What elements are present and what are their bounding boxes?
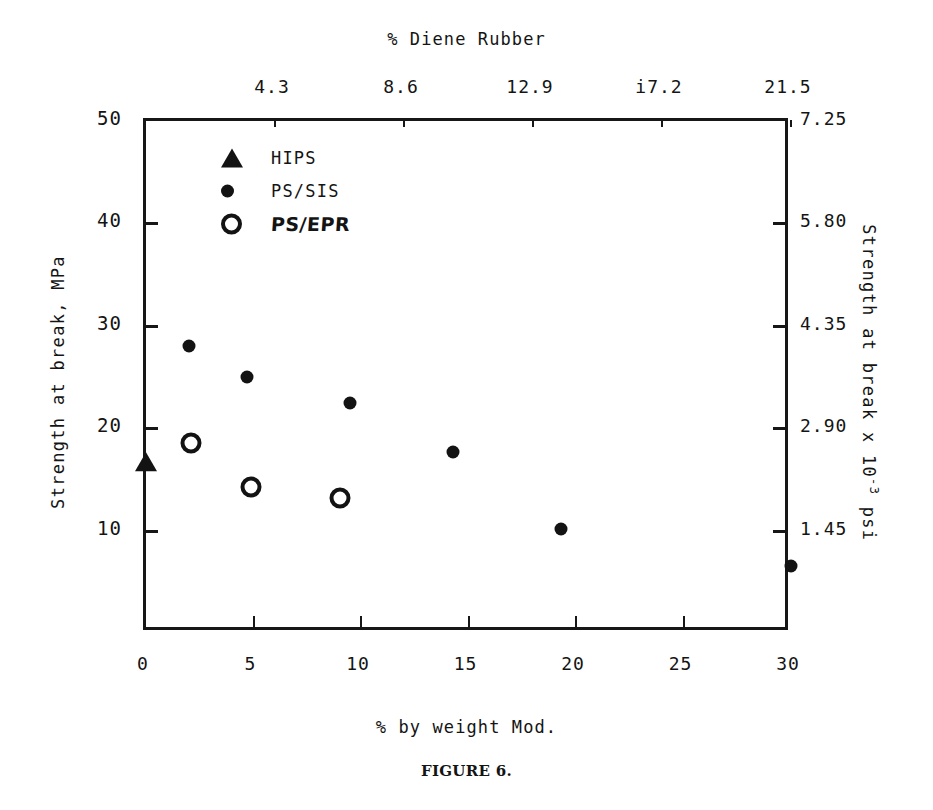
x-axis-tick-label: 20 <box>561 653 585 674</box>
plot-area[interactable]: HIPSPS/SISPS/EPR <box>143 118 788 630</box>
data-point-ps-sis <box>241 371 254 384</box>
y-axis-tick <box>145 325 158 328</box>
top-axis-tick <box>790 120 792 127</box>
secondary-y-axis-tick <box>773 427 786 430</box>
data-point-hips <box>135 452 157 471</box>
data-point-ps-epr <box>241 476 262 497</box>
x-axis-tick <box>683 616 685 628</box>
secondary-y-axis-title-exponent: -3 <box>867 478 881 495</box>
x-axis-tick-label: 15 <box>454 653 478 674</box>
y-axis-tick-label: 50 <box>62 107 122 129</box>
data-point-ps-sis <box>785 560 798 573</box>
data-point-ps-sis <box>344 396 357 409</box>
secondary-y-axis-tick <box>773 325 786 328</box>
legend-item-ps-epr: PS/EPR <box>221 207 441 240</box>
legend-label: PS/EPR <box>270 213 351 235</box>
x-axis-tick-label: 25 <box>669 653 693 674</box>
data-point-ps-sis <box>447 445 460 458</box>
data-point-ps-epr <box>329 487 350 508</box>
y-axis-tick-label: 10 <box>62 517 122 539</box>
top-axis-tick-label: 4.3 <box>254 76 290 97</box>
figure-caption: FIGURE 6. <box>0 762 933 780</box>
top-axis-tick <box>274 120 276 127</box>
legend-item-hips: HIPS <box>221 141 441 174</box>
legend-label: HIPS <box>271 148 317 168</box>
x-axis-tick-label: 10 <box>346 653 370 674</box>
top-axis-tick-label: i7.2 <box>635 76 682 97</box>
secondary-y-axis-title: Strength at break x 10-3 psi <box>859 173 881 593</box>
y-axis-tick <box>145 530 158 533</box>
chart-legend: HIPSPS/SISPS/EPR <box>221 141 441 240</box>
secondary-y-axis-title-post: psi <box>859 495 879 541</box>
open-circle-icon <box>221 213 242 234</box>
x-axis-tick <box>575 616 577 628</box>
x-axis-tick-label: 0 <box>137 653 149 674</box>
x-axis-tick <box>360 616 362 628</box>
secondary-y-axis-tick <box>773 530 786 533</box>
y-axis-tick <box>145 222 158 225</box>
top-axis-tick <box>532 120 534 127</box>
top-axis-tick-label: 12.9 <box>506 76 553 97</box>
y-axis-tick-label: 30 <box>62 312 122 334</box>
data-point-ps-sis <box>554 522 567 535</box>
secondary-y-axis-title-pre: Strength at break x 10 <box>859 224 879 478</box>
secondary-y-axis-tick-label: 7.25 <box>800 108 870 129</box>
top-axis-title: % Diene Rubber <box>0 29 933 49</box>
data-point-ps-epr <box>181 432 202 453</box>
x-axis-tick <box>468 616 470 628</box>
x-axis-tick-label: 30 <box>776 653 800 674</box>
filled-triangle-icon <box>221 148 243 167</box>
top-axis-tick <box>661 120 663 127</box>
x-axis-tick-label: 5 <box>245 653 257 674</box>
x-axis-title: % by weight Mod. <box>0 717 933 737</box>
y-axis-tick-label: 40 <box>62 209 122 231</box>
y-axis-tick-label: 20 <box>62 414 122 436</box>
top-axis-tick-label: 8.6 <box>383 76 419 97</box>
legend-label: PS/SIS <box>271 181 340 201</box>
data-point-ps-sis <box>183 340 196 353</box>
legend-item-ps-sis: PS/SIS <box>221 174 441 207</box>
top-axis-tick-label: 21.5 <box>764 76 811 97</box>
y-axis-title: Strength at break, MPa <box>48 172 68 592</box>
filled-circle-icon <box>221 184 234 197</box>
secondary-y-axis-tick <box>773 222 786 225</box>
y-axis-tick <box>145 427 158 430</box>
x-axis-tick <box>253 616 255 628</box>
top-axis-tick <box>403 120 405 127</box>
